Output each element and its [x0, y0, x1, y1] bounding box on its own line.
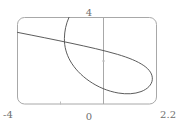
- plotted-curve: [18, 18, 153, 94]
- x-max-label: 2.2: [160, 110, 176, 120]
- y-max-label: 4: [0, 8, 178, 18]
- origin-label: 0: [0, 112, 178, 122]
- x-min-label: -4: [3, 110, 13, 120]
- plot-canvas: [0, 0, 178, 129]
- graph-screenshot: 4 0 -4 2.2: [0, 0, 178, 129]
